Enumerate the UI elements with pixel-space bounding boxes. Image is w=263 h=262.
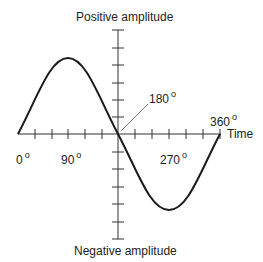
label-360-deg: 360o [210,110,237,129]
label-180-deg: 180o [149,87,176,106]
negative-amplitude-label: Negative amplitude [74,244,177,258]
positive-amplitude-label: Positive amplitude [76,10,173,24]
sine-wave-diagram: Positive amplitude Negative amplitude Ti… [0,0,263,262]
label-270-deg: 270o [160,148,187,167]
label-90-deg: 90o [61,148,81,167]
time-label: Time [227,127,253,141]
leader-line-180 [121,104,148,131]
label-0-deg: 0o [16,148,30,167]
diagram-canvas [0,0,263,262]
